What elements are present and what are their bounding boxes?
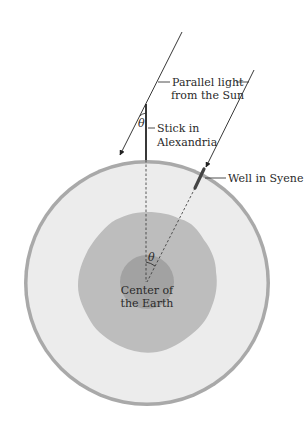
label-stick-line2: Alexandria (156, 136, 218, 149)
earth (24, 160, 270, 406)
label-sunlight-line2: from the Sun (171, 89, 244, 102)
label-center-line2: the Earth (121, 297, 174, 310)
label-center-line1: Center of (121, 284, 174, 297)
label-sunlight-line1: Parallel light (172, 76, 244, 89)
label-stick-line1: Stick in (157, 122, 199, 135)
eratosthenes-diagram: θ θ Parallel light from the Sun Stick in… (0, 0, 305, 434)
angle-label-stick: θ (138, 117, 145, 130)
angle-label-center: θ (148, 251, 155, 264)
label-well: Well in Syene (228, 172, 303, 185)
